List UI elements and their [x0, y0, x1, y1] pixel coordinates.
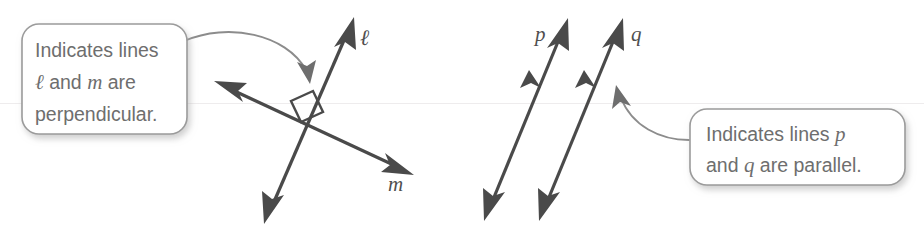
- line-q-arrowhead-bottom: [538, 188, 560, 221]
- parallel-callout-line1: Indicates lines p: [706, 122, 846, 146]
- leader-curve-right: [621, 98, 689, 140]
- right-angle-marker: [291, 91, 323, 122]
- line-p-parallel-tick: [520, 70, 541, 88]
- line-m-arrowhead-left: [214, 81, 247, 102]
- perpendicular-callout-line3: perpendicular.: [35, 103, 158, 125]
- perpendicular-callout-line1: Indicates lines: [35, 39, 159, 61]
- callout-var-m: m: [87, 70, 102, 94]
- leader-arrowhead-right: [612, 85, 631, 109]
- callout-mid-and: and: [44, 71, 87, 93]
- line-p-stroke: [490, 32, 562, 207]
- callout-symbol-ell: ℓ: [35, 70, 44, 94]
- callout-var-p: p: [833, 122, 846, 146]
- figure-canvas: ℓ m Indicates lines ℓ and m are perpendi…: [0, 0, 924, 228]
- geometry-figure: ℓ m Indicates lines ℓ and m are perpendi…: [0, 0, 924, 228]
- line-q: [538, 18, 624, 221]
- parallel-lines-diagram: p q: [483, 18, 642, 221]
- parallel-callout-leader: [612, 85, 689, 140]
- line-label-m: m: [388, 172, 403, 196]
- line-label-p: p: [533, 22, 546, 46]
- parallel-callout-prefix: Indicates lines: [706, 123, 835, 145]
- line-l-arrowhead-top: [334, 17, 356, 50]
- line-q-arrowhead-top: [602, 18, 624, 51]
- callout-var-q: q: [744, 153, 755, 177]
- parallel-callout-and: and: [706, 154, 744, 176]
- line-p-arrowhead-top: [547, 18, 569, 51]
- line-l: [262, 17, 356, 224]
- leader-arrowhead-left: [297, 60, 316, 84]
- line-p-arrowhead-bottom: [483, 188, 505, 221]
- callout-suffix-are: are: [102, 71, 136, 93]
- line-label-l: ℓ: [360, 25, 370, 50]
- perpendicular-callout-leader: [184, 32, 316, 84]
- right-angle-square: [291, 91, 323, 122]
- parallel-callout-line2: and q are parallel.: [706, 153, 862, 177]
- line-q-parallel-tick: [575, 70, 596, 88]
- line-l-stroke: [270, 31, 348, 211]
- line-p: [483, 18, 569, 221]
- leader-curve-left: [184, 32, 306, 70]
- line-m-stroke: [228, 88, 400, 168]
- line-label-q: q: [631, 22, 642, 46]
- line-q-stroke: [545, 32, 617, 207]
- parallel-callout-suffix: are parallel.: [754, 154, 861, 176]
- line-l-arrowhead-bottom: [262, 191, 284, 224]
- perpendicular-callout-line2: ℓ and m are: [35, 70, 136, 94]
- perpendicular-lines-diagram: ℓ m: [214, 17, 414, 224]
